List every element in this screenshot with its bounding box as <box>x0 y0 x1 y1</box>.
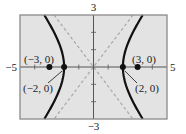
point-label-focus-right: (3, 0) <box>132 53 156 66</box>
point-label-focus-left: (−3, 0) <box>24 53 54 66</box>
x-max-label: 5 <box>170 61 176 73</box>
point-label-vertex-right: (2, 0) <box>135 82 159 95</box>
point-label-vertex-left: (−2, 0) <box>23 82 53 95</box>
y-min-label: −3 <box>88 120 100 132</box>
point-vertex <box>120 64 126 70</box>
hyperbola-chart: 3 −3 −5 5 (−3, 0) (−2, 0) (2, 0) (3, 0) <box>0 0 186 134</box>
x-min-label: −5 <box>5 61 17 73</box>
y-max-label: 3 <box>91 1 97 13</box>
point-vertex <box>61 64 67 70</box>
